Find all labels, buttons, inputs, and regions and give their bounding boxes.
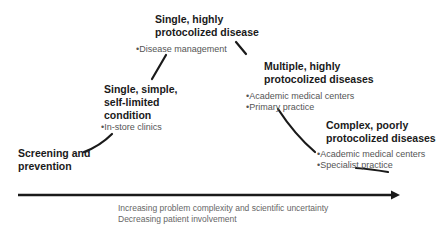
care-complexity-diagram: Screening and prevention Single, simple,… <box>0 0 447 228</box>
connector-multiple-to-complex <box>278 109 315 152</box>
stage-heading-multiple-highly: Multiple, highly protocolized diseases <box>264 60 374 86</box>
bullet-item: Disease management <box>136 44 227 55</box>
stage-heading-complex-poorly: Complex, poorly protocolized diseases <box>326 119 436 145</box>
bullet-item: Specialist practice <box>317 160 425 171</box>
axis-label-line1: Increasing problem complexity and scient… <box>118 203 328 214</box>
bullet-item: Academic medical centers <box>246 91 354 102</box>
bullet-item: Academic medical centers <box>317 149 425 160</box>
stage-bullets-single-simple: In-store clinics <box>101 122 162 133</box>
stage-bullets-complex-poorly: Academic medical centers Specialist prac… <box>317 149 425 171</box>
bullet-item: Primary practice <box>246 102 354 113</box>
stage-bullets-multiple-highly: Academic medical centers Primary practic… <box>246 91 354 113</box>
stage-heading-single-highly: Single, highly protocolized disease <box>155 13 259 39</box>
axis-label-line2: Decreasing patient involvement <box>118 214 328 225</box>
connector-highly-to-multiple <box>236 42 246 54</box>
axis-label: Increasing problem complexity and scient… <box>118 203 328 225</box>
bullet-item: In-store clinics <box>101 122 162 133</box>
axis-arrow-head <box>391 191 400 200</box>
stage-heading-single-simple: Single, simple, self-limited condition <box>104 83 178 122</box>
connector-simple-to-highly <box>152 55 166 79</box>
stage-heading-screening: Screening and prevention <box>18 147 90 173</box>
stage-bullets-single-highly: Disease management <box>136 44 227 55</box>
